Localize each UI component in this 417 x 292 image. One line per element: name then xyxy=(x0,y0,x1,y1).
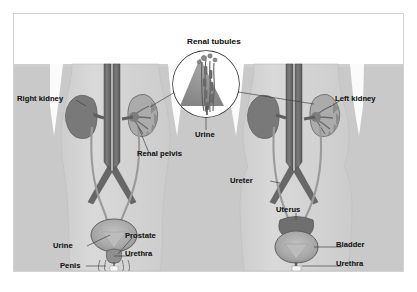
label-renal-pelvis: Renal pelvis xyxy=(137,149,182,158)
female-left-renal-pelvis xyxy=(304,117,315,119)
label-urine-center: Urine xyxy=(195,130,215,139)
label-right-kidney: Right kidney xyxy=(17,94,63,103)
label-ureter: Ureter xyxy=(230,176,253,185)
label-urethra-female: Urethra xyxy=(336,259,363,268)
female-vena-cava xyxy=(286,64,293,172)
male-urethral-meatus xyxy=(110,266,118,271)
anatomy-illustration xyxy=(14,14,403,271)
figure-frame: Renal tubules Right kidney Left kidney U… xyxy=(13,13,404,272)
label-left-kidney: Left kidney xyxy=(335,94,376,103)
male-vena-cava xyxy=(104,64,111,172)
label-urethra-male: Urethra xyxy=(125,249,152,258)
figure-artwork xyxy=(14,14,403,271)
female-aorta xyxy=(295,64,302,172)
male-left-renal-pelvis xyxy=(122,117,133,119)
renal-tubules-inset xyxy=(173,51,239,117)
female-urethral-meatus xyxy=(292,266,301,271)
urinary-system-figure: Renal tubules Right kidney Left kidney U… xyxy=(0,0,417,292)
label-uterus: Uterus xyxy=(276,205,300,214)
label-prostate: Prostate xyxy=(125,231,156,240)
label-bladder: Bladder xyxy=(336,240,365,249)
label-renal-tubules: Renal tubules xyxy=(187,37,241,46)
label-urine-male: Urine xyxy=(53,241,73,250)
male-aorta xyxy=(113,64,120,172)
male-figure xyxy=(50,64,181,271)
label-penis: Penis xyxy=(60,261,81,270)
